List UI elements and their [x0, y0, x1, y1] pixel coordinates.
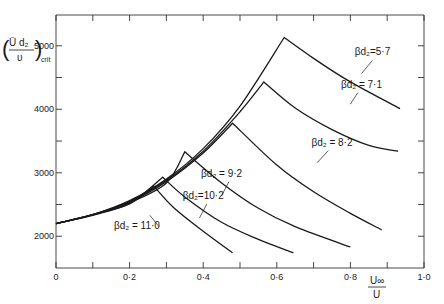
y-title-subscript: crit — [41, 56, 50, 63]
y-title-denominator: υ — [17, 52, 22, 63]
y-tick-label: 3000 — [34, 168, 54, 178]
y-axis-ticks: 2000300040005000 — [34, 41, 424, 242]
curve-label: βd₂ = 9·2 — [201, 168, 242, 179]
x-title-denominator: U — [373, 289, 380, 300]
curve-label: βd₂=10·2 — [183, 190, 224, 201]
x-tick-label: 0 — [53, 272, 58, 282]
leader-line — [361, 60, 372, 73]
x-tick-label: 0·8 — [344, 272, 357, 282]
x-tick-label: 0·4 — [197, 272, 210, 282]
y-tick-label: 4000 — [34, 104, 54, 114]
chart: 00·20·40·60·81·0 2000300040005000 βd₂ = … — [0, 0, 444, 304]
curve-label: βd₂ = 11·0 — [114, 220, 160, 231]
x-axis-title: U∞ U — [368, 275, 386, 300]
curve-label: βd₂ = 7·1 — [341, 79, 382, 90]
y-title-numerator: Ū d₂ — [9, 37, 29, 48]
x-tick-label: 0·2 — [123, 272, 136, 282]
x-tick-label: 1·0 — [417, 272, 430, 282]
leader-line — [350, 93, 357, 104]
leader-line — [317, 151, 328, 163]
curve-line: βd₂ = 5·7 — [56, 38, 400, 224]
y-tick-label: 2000 — [34, 231, 54, 241]
curve-labels: βd₂=5·7βd₂ = 7·1βd₂ = 8·2βd₂ = 9·2βd₂=10… — [114, 46, 391, 231]
curve-label: βd₂ = 8·2 — [311, 137, 352, 148]
curve-line: βd₂ = 7·1 — [56, 82, 398, 224]
leader-line — [200, 204, 207, 218]
curve-label: βd₂=5·7 — [355, 46, 391, 57]
x-title-numerator: U∞ — [370, 275, 384, 286]
x-tick-label: 0·6 — [270, 272, 283, 282]
